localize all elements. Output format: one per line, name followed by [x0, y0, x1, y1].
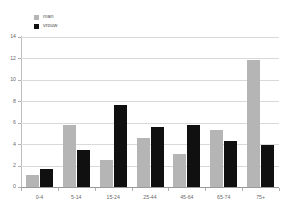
x-tick-mark — [132, 188, 133, 191]
x-tick-mark — [58, 188, 59, 191]
legend-swatch-icon — [34, 15, 39, 20]
y-axis: 02468101214 — [0, 0, 18, 209]
bar-group — [21, 37, 279, 187]
x-tick-mark — [21, 188, 22, 191]
plot-area — [21, 37, 279, 187]
legend-label: vrouw — [43, 23, 57, 29]
legend-item-vrouw: vrouw — [34, 22, 57, 30]
x-tick-mark — [168, 188, 169, 191]
x-tick-label: 5-14 — [61, 195, 91, 200]
legend-item-man: man — [34, 13, 57, 21]
y-tick-label: 0 — [0, 184, 16, 189]
y-tick-label: 14 — [0, 34, 16, 39]
y-tick-label: 6 — [0, 120, 16, 125]
x-tick-mark — [95, 188, 96, 191]
legend-swatch-icon — [34, 24, 39, 29]
y-tick-label: 12 — [0, 56, 16, 61]
x-tick-label: 15-24 — [98, 195, 128, 200]
x-tick-label: 25-44 — [135, 195, 165, 200]
y-tick-label: 10 — [0, 77, 16, 82]
bar-man-75+ — [247, 60, 260, 187]
y-tick-label: 4 — [0, 142, 16, 147]
x-tick-mark — [279, 188, 280, 191]
x-tick-label: 75+ — [246, 195, 276, 200]
bar-vrouw-75+ — [261, 145, 274, 187]
y-tick-label: 2 — [0, 163, 16, 168]
x-tick-mark — [205, 188, 206, 191]
legend-label: man — [43, 14, 54, 20]
x-tick-label: 0-4 — [24, 195, 54, 200]
chart-legend: manvrouw — [34, 13, 57, 31]
x-tick-label: 65-74 — [209, 195, 239, 200]
y-tick-label: 8 — [0, 99, 16, 104]
x-axis-line — [21, 187, 279, 188]
x-tick-mark — [242, 188, 243, 191]
x-tick-label: 45-64 — [172, 195, 202, 200]
bar-chart: 02468101214 0-45-1415-2425-4445-6465-747… — [0, 0, 287, 209]
